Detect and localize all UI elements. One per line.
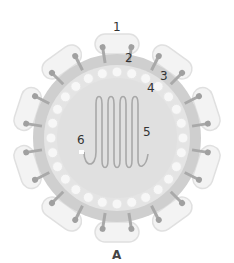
label-5: 5: [143, 126, 151, 138]
label-6: 6: [77, 134, 85, 146]
label-3: 3: [160, 70, 168, 82]
core: [57, 78, 177, 198]
rna-end-marker: [79, 150, 84, 154]
label-2: 2: [125, 52, 133, 64]
label-4: 4: [147, 82, 155, 94]
figure-caption: A: [112, 248, 121, 262]
label-1: 1: [113, 21, 121, 33]
virus-diagram: [0, 0, 234, 263]
